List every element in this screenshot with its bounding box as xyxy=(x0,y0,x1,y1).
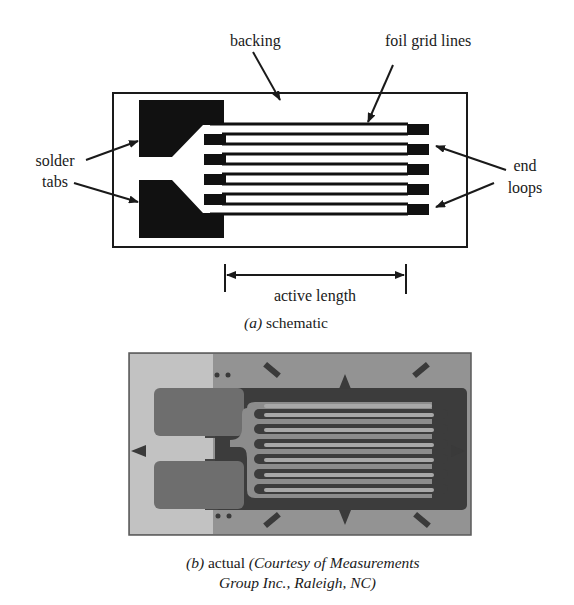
caption-a-letter: (a) xyxy=(244,314,262,331)
backing-label: backing xyxy=(230,32,281,50)
caption-b-text: actual xyxy=(204,554,249,571)
solder-tabs-label-line1: solder xyxy=(30,152,80,170)
caption-b-letter: (b) xyxy=(186,554,204,571)
active-length-label: active length xyxy=(255,287,375,305)
end-loops-label-line2: loops xyxy=(500,179,550,197)
solder-tabs-label-line2: tabs xyxy=(30,173,80,191)
end-loops-label-line1: end xyxy=(500,157,550,175)
foil-grid-lines-label: foil grid lines xyxy=(385,32,471,50)
caption-a-text: schematic xyxy=(262,314,328,331)
caption-b-credit-line1: (Courtesy of Measurements xyxy=(249,554,420,571)
caption-b: (b) actual (Courtesy of Measurements xyxy=(186,553,420,573)
strain-gauge-photo xyxy=(129,353,471,535)
caption-b-credit-line2: Group Inc., Raleigh, NC) xyxy=(219,573,376,593)
caption-a: (a) schematic xyxy=(244,313,328,333)
